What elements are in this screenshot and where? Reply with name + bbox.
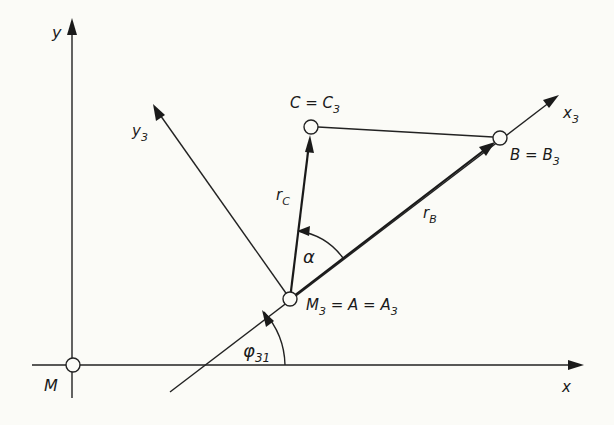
- vector-rB-label: rB: [423, 204, 437, 226]
- vector-rB: [290, 142, 495, 299]
- angle-alpha-label: α: [303, 246, 315, 267]
- segment-CB: [318, 127, 493, 137]
- y-axis-arrow-icon: [67, 18, 77, 35]
- vector-rC: [290, 135, 314, 299]
- x-axis-label: x: [561, 378, 571, 396]
- angle-phi31-label: φ31: [243, 340, 270, 365]
- vector-rC-arrow-icon: [305, 135, 314, 153]
- y3-axis: [153, 104, 288, 296]
- origin-point-M: [66, 358, 80, 372]
- point-B: [493, 131, 507, 145]
- point-B-label: B = B3: [510, 146, 560, 168]
- y-axis: [67, 18, 77, 398]
- vector-rC-label: rC: [276, 186, 290, 208]
- point-A-label: M3 = A = A3: [306, 296, 398, 318]
- y-axis-label: y: [51, 23, 62, 42]
- x-axis: [32, 360, 584, 370]
- point-A-M3: [283, 292, 297, 306]
- origin-label: M: [44, 376, 58, 395]
- point-C: [304, 120, 318, 134]
- point-C-label: C = C3: [290, 94, 340, 116]
- kinematic-diagram: x y M x3 y3 rB rC α: [0, 0, 614, 425]
- x-axis-arrow-icon: [568, 360, 584, 370]
- phi31-arrow-icon: [262, 310, 274, 327]
- x3-axis-label: x3: [562, 104, 579, 126]
- y3-axis-label: y3: [131, 122, 148, 144]
